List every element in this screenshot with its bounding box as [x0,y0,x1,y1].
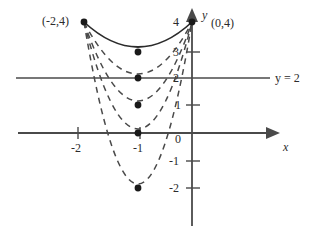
annotation-point-neg2-4: (-2,4) [42,15,69,27]
annotation-point-0-4: (0,4) [211,17,234,29]
y-tick-label-2: 2 [173,72,179,84]
x-tick-label-neg2: -2 [71,142,81,154]
point-neg1-3 [135,49,142,56]
y-tick-label-1: 1 [175,99,181,111]
y-tick-label-3: 3 [173,46,179,58]
y-tick-label-neg1: -1 [169,155,179,167]
point-neg1-1 [135,102,142,109]
x-axis-arrowhead [266,127,280,139]
y-tick-label-neg2: -2 [169,182,179,194]
x-axis-name-label: x [283,141,288,153]
point-0-4 [189,19,196,26]
x-tick-label-neg1: -1 [133,142,143,154]
point-neg1-neg2 [135,185,142,192]
parabola-family-plot [0,0,309,238]
point-neg2-4 [81,19,88,26]
y-axis-ticks [186,52,200,188]
point-neg1-2 [135,75,142,82]
reference-line-label: y = 2 [275,72,300,84]
figure-canvas: 4 3 2 1 0 -1 -2 -2 -1 x y (-2,4) (0,4) y… [0,0,309,238]
y-axis-name-label: y [202,9,207,21]
point-neg1-0 [135,130,142,137]
y-tick-label-4: 4 [173,16,179,28]
y-tick-label-0: 0 [175,133,181,145]
